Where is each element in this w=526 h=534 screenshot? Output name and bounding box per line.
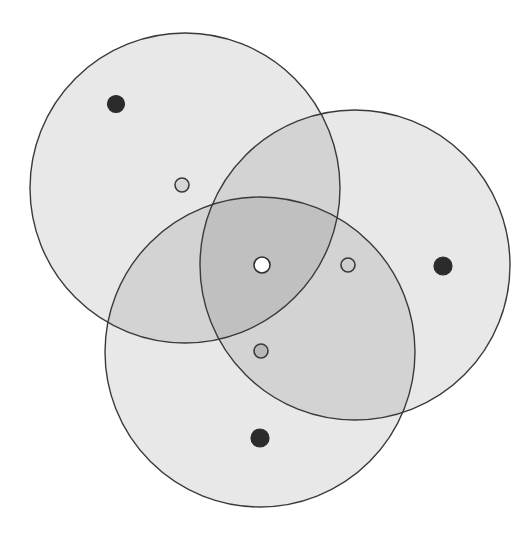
- dark-dot-top-left-marker: [108, 96, 125, 113]
- light-ring-upper-left-marker: [175, 178, 189, 192]
- gray-ring-below-center-marker: [254, 344, 268, 358]
- dark-dot-bottom-marker: [251, 429, 269, 447]
- dark-dot-right-marker: [434, 257, 452, 275]
- diagram-canvas: [0, 0, 526, 534]
- light-ring-right-of-center-marker: [341, 258, 355, 272]
- white-dot-center-marker: [254, 257, 270, 273]
- venn-diagram: [0, 0, 526, 534]
